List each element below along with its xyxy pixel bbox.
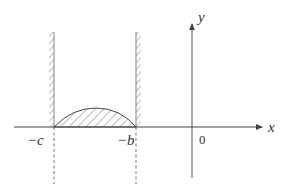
origin-label: 0 [199,132,206,147]
coordinate-diagram: x y 0 −c −b [0,0,296,190]
left-wall-hatching [49,32,54,127]
hatched-arch-region [54,108,136,127]
minus-b-label: −b [117,132,135,148]
right-wall [136,32,141,184]
left-wall [49,32,54,184]
minus-c-label: −c [27,132,44,148]
y-axis-label: y [196,9,205,25]
right-wall-hatching [136,32,141,127]
x-axis-label: x [267,119,275,135]
